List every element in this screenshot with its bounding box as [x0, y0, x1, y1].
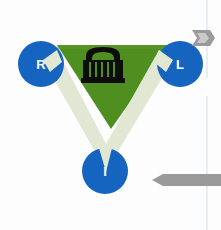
diagram-canvas: R L I	[0, 0, 221, 230]
classical-building-icon	[81, 47, 125, 83]
triad-diagram: R L I	[0, 0, 221, 230]
long-left-arrow[interactable]	[152, 174, 221, 186]
node-l-label: L	[176, 57, 184, 72]
building-base	[81, 78, 125, 83]
